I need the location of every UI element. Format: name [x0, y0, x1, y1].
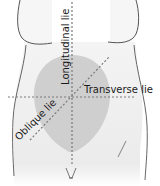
- transverse-lie-label: Transverse lie: [83, 84, 153, 95]
- fetal-lie-diagram: Longitudinal lie Transverse lie Oblique …: [0, 0, 160, 186]
- longitudinal-lie-label: Longitudinal lie: [60, 9, 71, 86]
